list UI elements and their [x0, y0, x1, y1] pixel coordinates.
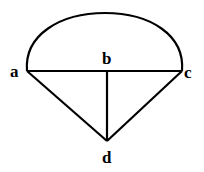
edge-c-d — [107, 71, 182, 141]
diagram-canvas: a b c d — [0, 0, 204, 172]
label-d: d — [102, 148, 112, 167]
geometry-figure: a b c d — [0, 0, 204, 172]
label-b: b — [102, 49, 111, 68]
label-a: a — [10, 62, 19, 81]
label-c: c — [184, 63, 192, 82]
edge-a-d — [27, 71, 107, 141]
